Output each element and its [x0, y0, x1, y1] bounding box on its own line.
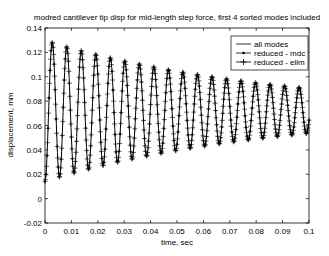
svg-text:reduced - mdc: reduced - mdc — [254, 49, 305, 58]
x-tick-label: 0.08 — [248, 227, 264, 236]
y-tick-label: 0.1 — [31, 73, 43, 82]
x-tick-label: 0.1 — [303, 227, 315, 236]
y-tick-label: 0.06 — [26, 122, 42, 131]
y-tick-label: -0.02 — [24, 219, 43, 228]
dot-marker-icon — [242, 52, 245, 55]
x-tick-label: 0.09 — [275, 227, 291, 236]
y-tick-label: 0 — [38, 195, 43, 204]
x-tick-label: 0.01 — [64, 227, 80, 236]
y-tick-label: 0.02 — [26, 170, 42, 179]
x-tick-label: 0.05 — [169, 227, 185, 236]
x-tick-label: 0.03 — [116, 227, 132, 236]
y-tick-label: 0.12 — [26, 48, 42, 57]
y-tick-label: 0.08 — [26, 97, 42, 106]
x-tick-label: 0 — [43, 227, 48, 236]
svg-text:all modes: all modes — [254, 40, 288, 49]
y-axis-label: displacement, mm — [6, 92, 15, 157]
x-tick-label: 0.04 — [143, 227, 159, 236]
x-tick-label: 0.02 — [90, 227, 106, 236]
x-axis-label: time, sec — [161, 238, 193, 247]
chart: modred cantilever tip disp for mid-lengt… — [0, 0, 329, 256]
svg-text:reduced - elim: reduced - elim — [254, 58, 305, 67]
chart-title: modred cantilever tip disp for mid-lengt… — [34, 13, 320, 22]
legend: all modes reduced - mdc reduced - elim — [231, 36, 308, 70]
y-tick-label: 0.04 — [26, 146, 42, 155]
x-tick-label: 0.07 — [222, 227, 238, 236]
x-tick-label: 0.06 — [196, 227, 212, 236]
y-tick-label: 0.14 — [26, 24, 42, 33]
